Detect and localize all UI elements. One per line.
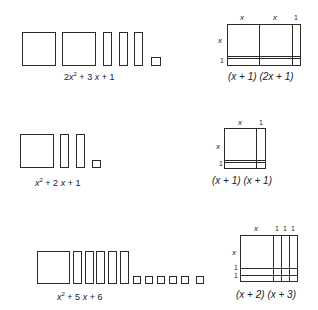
x-squared-tile xyxy=(22,32,56,66)
top-label: 1 xyxy=(259,119,263,126)
x-tile xyxy=(103,32,112,66)
row-1-polynomial: 2x2 + 3 x + 1 xyxy=(64,71,114,82)
side-label: 1 xyxy=(219,160,223,167)
top-label: x xyxy=(238,118,242,127)
x-squared-tile xyxy=(37,251,70,284)
area-rectangle xyxy=(240,235,298,282)
unit-tile xyxy=(133,276,141,284)
row-2-factored: (x + 1) (x + 1) xyxy=(212,175,272,186)
unit-tile xyxy=(145,276,153,284)
unit-tile xyxy=(151,57,161,66)
x-squared-tile xyxy=(20,134,54,168)
top-label: x xyxy=(240,13,244,22)
unit-tile xyxy=(181,276,189,284)
area-rectangle xyxy=(227,24,301,66)
unit-tile xyxy=(157,276,165,284)
side-label: x xyxy=(218,36,222,45)
x-tile xyxy=(60,134,69,168)
top-label: x xyxy=(273,13,277,22)
side-label: x xyxy=(232,248,236,257)
x-tile xyxy=(120,251,129,284)
unit-tile xyxy=(92,160,101,168)
x-tile xyxy=(108,251,117,284)
row-1-factored: (x + 1) (2x + 1) xyxy=(228,71,294,82)
top-label: 1 xyxy=(291,225,295,232)
top-label: x xyxy=(254,224,258,233)
x-tile xyxy=(73,251,82,284)
area-square xyxy=(224,128,266,169)
x-tile xyxy=(134,32,143,66)
x-tile xyxy=(76,134,85,168)
x-squared-tile xyxy=(62,32,96,66)
top-label: 1 xyxy=(294,14,298,21)
row-3-factored: (x + 2) (x + 3) xyxy=(236,289,296,300)
side-label: 1 xyxy=(234,272,238,279)
row-3-polynomial: x2 + 5 x + 6 xyxy=(57,291,102,302)
row-2-polynomial: x2 + 2 x + 1 xyxy=(35,177,80,188)
side-label: 1 xyxy=(234,264,238,271)
unit-tile xyxy=(169,276,177,284)
x-tile xyxy=(85,251,94,284)
top-label: 1 xyxy=(275,225,279,232)
top-label: 1 xyxy=(283,225,287,232)
x-tile xyxy=(96,251,105,284)
side-label: x xyxy=(216,142,220,151)
side-label: 1 xyxy=(220,57,224,64)
x-tile xyxy=(119,32,128,66)
unit-tile xyxy=(196,276,204,284)
